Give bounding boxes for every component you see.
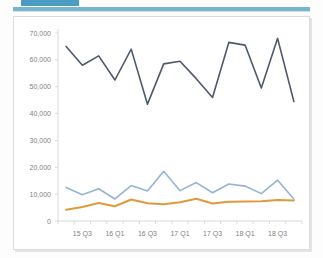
y-axis-tick-label: 50,000 <box>30 83 52 90</box>
x-axis-tick-label: 17 Q3 <box>203 230 222 238</box>
line-chart-svg: 010,00020,00030,00040,00050,00060,00070,… <box>14 17 309 249</box>
y-axis-tick-label: 70,000 <box>30 30 52 37</box>
y-axis-tick-label: 20,000 <box>30 164 52 171</box>
series-group <box>66 38 294 209</box>
x-axis-tick-label: 16 Q3 <box>138 230 157 238</box>
x-axis-group: 15 Q316 Q116 Q317 Q117 Q318 Q118 Q3 <box>58 221 302 238</box>
x-axis-tick-label: 15 Q3 <box>73 230 92 238</box>
y-axis-group: 010,00020,00030,00040,00050,00060,00070,… <box>30 29 58 225</box>
chart-area: 010,00020,00030,00040,00050,00060,00070,… <box>14 17 309 249</box>
y-axis-tick-label: 60,000 <box>30 56 52 63</box>
ribbon-accent-bar-shadow <box>13 11 310 12</box>
chart-series-orange <box>66 199 294 210</box>
y-axis-tick-label: 10,000 <box>30 191 52 198</box>
y-axis-tick-label: 30,000 <box>30 137 52 144</box>
x-axis-tick-label: 16 Q1 <box>105 230 124 238</box>
chart-series-light-blue <box>66 171 294 199</box>
panel-shadow-bottom <box>15 250 311 252</box>
x-axis-tick-label: 17 Q1 <box>170 230 189 238</box>
x-axis-tick-label: 18 Q1 <box>236 230 255 238</box>
x-axis-tick-label: 18 Q3 <box>268 230 287 238</box>
y-axis-tick-label: 0 <box>47 218 51 225</box>
screenshot-root: 010,00020,00030,00040,00050,00060,00070,… <box>0 0 323 258</box>
y-axis-tick-label: 40,000 <box>30 110 52 117</box>
chart-series-dark <box>66 38 294 104</box>
ribbon-tab-stub[interactable] <box>21 0 79 6</box>
chart-panel[interactable]: 010,00020,00030,00040,00050,00060,00070,… <box>13 16 310 250</box>
panel-shadow-right <box>310 18 312 252</box>
